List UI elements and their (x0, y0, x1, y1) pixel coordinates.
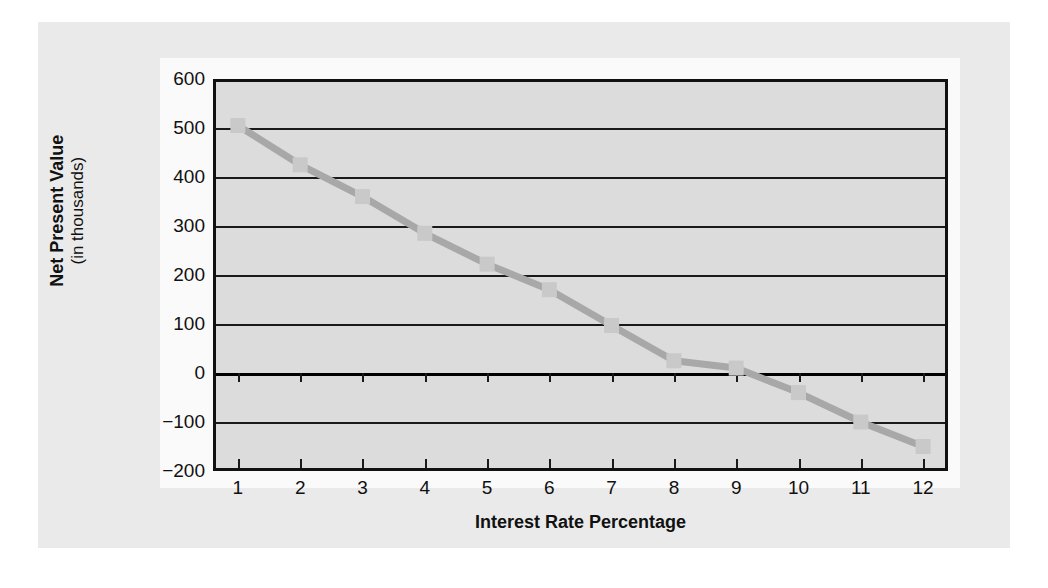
data-point-4 (417, 226, 432, 241)
series-line (238, 126, 923, 447)
data-point-1 (230, 118, 245, 133)
data-point-9 (729, 361, 744, 376)
y-tick-label-200: 200 (143, 265, 205, 284)
scanned-page: 6005004003002001000−100−200 123456789101… (0, 0, 1048, 588)
y-tick-label-400: 400 (143, 167, 205, 186)
x-tick-label-12: 12 (903, 478, 943, 497)
y-tick-label-0: 0 (143, 363, 205, 382)
data-point-10 (791, 385, 806, 400)
data-series-layer (213, 79, 948, 471)
x-axis-title: Interest Rate Percentage (213, 512, 948, 533)
data-point-11 (853, 415, 868, 430)
y-tick-label-300: 300 (143, 216, 205, 235)
x-tick-label-6: 6 (529, 478, 569, 497)
x-tick-label-3: 3 (342, 478, 382, 497)
y-axis-title-main: Net Present Value (47, 81, 68, 341)
y-tick-label--100: −100 (143, 412, 205, 431)
y-tick-label-100: 100 (143, 314, 205, 333)
x-tick-label-11: 11 (841, 478, 881, 497)
y-tick-label-600: 600 (143, 69, 205, 88)
x-tick-label-8: 8 (654, 478, 694, 497)
data-point-8 (666, 353, 681, 368)
x-tick-label-1: 1 (218, 478, 258, 497)
x-axis-tick-labels: 123456789101112 (213, 478, 948, 504)
x-tick-label-2: 2 (280, 478, 320, 497)
data-point-7 (604, 318, 619, 333)
y-tick-label-500: 500 (143, 118, 205, 137)
y-axis-title-units: (in thousands) (69, 81, 89, 341)
x-tick-label-7: 7 (592, 478, 632, 497)
data-point-2 (293, 157, 308, 172)
x-tick-label-9: 9 (716, 478, 756, 497)
data-point-6 (542, 282, 557, 297)
data-point-5 (480, 257, 495, 272)
data-point-3 (355, 189, 370, 204)
y-axis-tick-labels: 6005004003002001000−100−200 (135, 79, 205, 471)
x-tick-label-5: 5 (467, 478, 507, 497)
npv-line-chart: 6005004003002001000−100−200 123456789101… (0, 0, 1048, 588)
data-point-12 (916, 439, 931, 454)
y-axis-title: Net Present Value (in thousands) (47, 81, 88, 341)
x-tick-label-4: 4 (405, 478, 445, 497)
series-polyline (238, 126, 923, 447)
y-tick-label--200: −200 (143, 461, 205, 480)
x-tick-label-10: 10 (779, 478, 819, 497)
